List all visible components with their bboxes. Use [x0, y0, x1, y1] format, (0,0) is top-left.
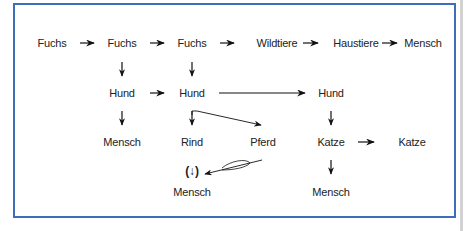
node-katze-1: Katze: [317, 136, 344, 148]
node-wildtiere: Wildtiere: [257, 37, 298, 49]
node-hund-3: Hund: [318, 87, 344, 99]
node-hund-1: Hund: [109, 87, 135, 99]
node-fuchs-3: Fuchs: [178, 37, 207, 49]
node-mensch-left: Mensch: [103, 136, 140, 148]
node-mensch-bottom-right: Mensch: [312, 186, 349, 198]
node-hund-2: Hund: [179, 87, 205, 99]
node-katze-2: Katze: [398, 136, 425, 148]
node-fuchs-1: Fuchs: [38, 37, 67, 49]
edges-layer: [0, 0, 469, 231]
node-uncertain-arrow: (↓): [185, 164, 198, 178]
node-fuchs-2: Fuchs: [108, 37, 137, 49]
node-mensch-bottom-mid: Mensch: [173, 186, 210, 198]
arrow-hund2-pferd: [192, 111, 261, 125]
node-rind: Rind: [181, 136, 203, 148]
node-haustiere: Haustiere: [333, 37, 378, 49]
node-pferd: Pferd: [250, 136, 275, 148]
node-mensch-top: Mensch: [404, 37, 441, 49]
